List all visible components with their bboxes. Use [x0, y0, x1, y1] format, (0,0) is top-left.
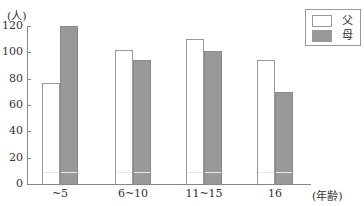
bar-father — [42, 83, 60, 184]
bar-stripe — [61, 172, 77, 173]
y-tick-mark — [27, 158, 31, 159]
bar-stripe — [258, 172, 274, 173]
bar-stripe — [116, 172, 132, 173]
bar-stripe — [276, 172, 292, 173]
bar-chart: (人) 020406080100120 ~56~1011~1516 (年齢) 父… — [0, 0, 364, 206]
x-axis-line — [27, 184, 311, 185]
bar-mother — [133, 60, 151, 184]
bar-stripe — [134, 172, 150, 173]
bar-stripe — [205, 172, 221, 173]
x-category-label: 6~10 — [103, 187, 163, 200]
legend-label-father: 父 — [342, 15, 353, 27]
x-axis-unit-label: (年齢) — [312, 187, 343, 203]
y-tick-label: 120 — [1, 20, 23, 32]
y-tick-mark — [27, 131, 31, 132]
y-tick-label: 40 — [1, 125, 23, 137]
y-tick-mark — [27, 26, 31, 27]
x-category-label: ~5 — [30, 187, 90, 200]
bar-father — [115, 50, 133, 184]
y-tick-label: 0 — [1, 178, 23, 190]
bar-mother — [204, 51, 222, 184]
bar-father — [186, 39, 204, 184]
y-tick-label: 100 — [1, 46, 23, 58]
x-category-label: 11~15 — [174, 187, 234, 200]
y-tick-label: 80 — [1, 73, 23, 85]
bar-mother — [275, 92, 293, 184]
y-tick-label: 20 — [1, 152, 23, 164]
legend-swatch-father — [312, 15, 332, 27]
x-category-label: 16 — [245, 187, 305, 200]
y-tick-mark — [27, 105, 31, 106]
bar-stripe — [43, 172, 59, 173]
legend-label-mother: 母 — [342, 30, 353, 42]
legend-swatch-mother — [312, 30, 332, 42]
bar-stripe — [187, 172, 203, 173]
y-tick-mark — [27, 184, 31, 185]
bar-mother — [60, 26, 78, 184]
legend: 父 母 — [305, 9, 361, 46]
y-tick-mark — [27, 52, 31, 53]
y-tick-label: 60 — [1, 99, 23, 111]
y-tick-mark — [27, 79, 31, 80]
bar-father — [257, 60, 275, 184]
